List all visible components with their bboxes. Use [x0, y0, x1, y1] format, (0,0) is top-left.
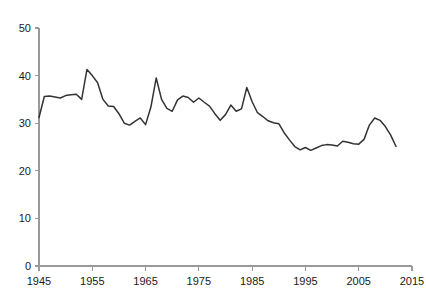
- y-tick-label: 30: [19, 117, 31, 129]
- x-tick-label: 1955: [80, 275, 104, 287]
- x-tick-label: 1965: [133, 275, 157, 287]
- y-tick-label: 10: [19, 212, 31, 224]
- y-tick-label: 0: [25, 260, 31, 272]
- y-axis: 01020304050: [19, 22, 39, 272]
- y-tick-label: 20: [19, 165, 31, 177]
- plot-series: [39, 69, 396, 150]
- y-axis-ticks: 01020304050: [19, 22, 39, 272]
- y-tick-label: 40: [19, 70, 31, 82]
- x-axis: 19451955196519751985199520052015: [27, 266, 424, 287]
- y-tick-label: 50: [19, 22, 31, 34]
- line-chart: 01020304050 1945195519651975198519952005…: [0, 0, 426, 308]
- x-tick-label: 2005: [346, 275, 370, 287]
- x-tick-label: 1995: [293, 275, 317, 287]
- x-tick-label: 2015: [400, 275, 424, 287]
- x-tick-label: 1985: [240, 275, 264, 287]
- x-tick-label: 1945: [27, 275, 51, 287]
- x-tick-label: 1975: [187, 275, 211, 287]
- data-line-series-1: [39, 69, 396, 150]
- chart-container: 01020304050 1945195519651975198519952005…: [0, 0, 426, 308]
- x-axis-ticks: 19451955196519751985199520052015: [27, 266, 424, 287]
